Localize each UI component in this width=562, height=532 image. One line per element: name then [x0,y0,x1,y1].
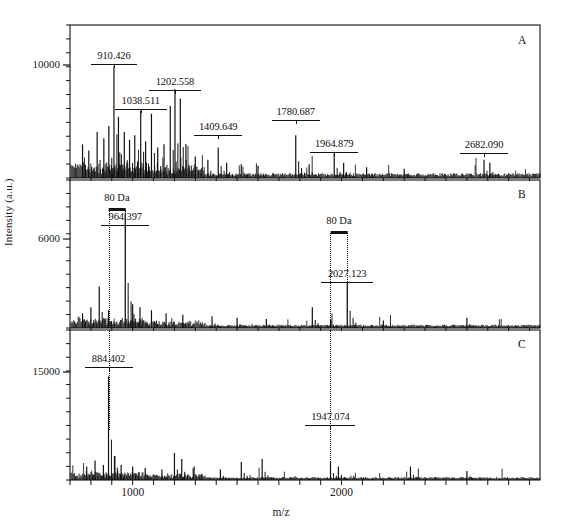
peak-rule-tick [296,120,297,124]
mass-spectra-figure: Intensity (a.u.) m/z 1000060001500010002… [0,0,562,532]
peak-label-910-426: 910.426 [97,50,130,61]
mass-delta-bar [109,208,126,211]
peak-label-1202-558: 1202.558 [156,76,195,87]
spectra-canvas [0,0,562,532]
peak-rule-tick [334,152,335,156]
peak-label-1409-649: 1409.649 [199,121,238,132]
peak-rule-tick [175,90,176,94]
panel-letter-b: B [518,188,526,200]
alignment-guide [109,330,110,430]
peak-label-1780-687: 1780.687 [276,106,315,117]
peak-rule-tick [141,109,142,113]
alignment-guide [330,233,331,328]
alignment-guide [109,210,110,328]
y-tick-label-panel-c: 15000 [8,365,60,377]
peak-label-1964-879: 1964.879 [315,138,354,149]
mass-delta-bar [331,231,348,234]
panel-letter-a: A [518,34,526,46]
y-tick-label-panel-a: 10000 [8,58,60,70]
peak-label-2682-090: 2682.090 [465,139,504,150]
mass-delta-label: 80 Da [326,215,351,226]
x-tick-label-2000: 2000 [312,486,372,498]
y-tick-label-panel-b: 6000 [8,232,60,244]
x-tick-label-1000: 1000 [103,486,163,498]
peak-rule-tick [484,153,485,157]
mass-delta-label: 80 Da [104,192,129,203]
peak-rule-tick [218,135,219,139]
peak-rule-tick [114,64,115,68]
panel-letter-c: C [518,338,526,350]
alignment-guide [347,233,348,328]
alignment-guide [125,210,126,328]
alignment-guide [330,330,331,470]
peak-label-1038-511: 1038.511 [122,95,160,106]
